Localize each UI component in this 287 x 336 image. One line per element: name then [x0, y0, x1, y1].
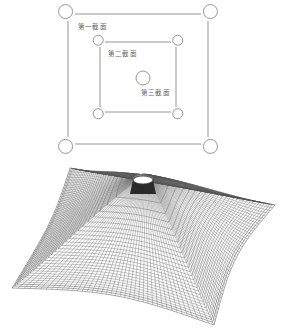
mast-top-ellipse: [133, 176, 153, 184]
corner-circle: [59, 139, 73, 153]
inner-section-circle: [136, 71, 150, 85]
corner-circle: [59, 5, 73, 19]
corner-circle: [203, 5, 217, 19]
middle-section-outline: [93, 35, 183, 119]
figure: [0, 0, 287, 336]
corner-circle: [203, 139, 217, 153]
mast-cap: [130, 176, 156, 194]
corner-circle: [173, 109, 183, 119]
label-first-section: 第一截面: [78, 21, 107, 31]
corner-circle: [93, 35, 103, 45]
corner-circle: [173, 35, 183, 45]
label-third-section: 第三截面: [141, 87, 170, 97]
label-second-section: 第二截面: [108, 48, 137, 58]
corner-circle: [93, 109, 103, 119]
